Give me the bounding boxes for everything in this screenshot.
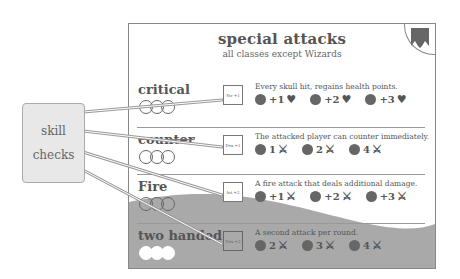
sword-icon: ⚔ [325,144,335,155]
bonus-item: 3 ⚔ [302,240,335,251]
die-icon [365,94,376,105]
sword-icon: ⚔ [278,240,288,251]
bonus-item: +1 ♥ [255,94,296,105]
bonus-value: +3 [380,191,395,202]
bonus-item: 4 ⚔ [349,240,382,251]
row-divider [137,174,425,175]
skill-check-circles [139,197,172,211]
bonus-value: +1 [269,191,284,202]
attack-row-counter: counter Dex +1 The attacked player can c… [129,132,435,178]
row-divider [137,127,425,128]
skill-check-circles [139,246,172,260]
sword-icon: ⚔ [286,191,296,202]
skill-check-circle[interactable] [161,197,175,211]
bonus-list: +1 ♥ +2 ♥ +3 ♥ [255,94,421,105]
die-icon [366,191,377,202]
attack-name: critical [138,82,190,97]
attack-description: Every skull hit, regains health points. [255,82,398,91]
skill-check-circle[interactable] [161,246,175,260]
attack-name: Fire [138,179,167,194]
bonus-value: 3 [316,240,323,251]
bonus-item: +2 ⚔ [310,191,351,202]
bonus-value: +1 [269,94,284,105]
bonus-value: 1 [269,144,276,155]
die-icon [349,144,360,155]
callout-line-2: checks [33,143,75,167]
bonus-item: 4 ⚔ [349,144,382,155]
bonus-item: +2 ♥ [310,94,351,105]
row-divider [137,223,425,224]
die-icon [255,191,266,202]
bonus-value: 4 [363,240,370,251]
stat-requirement-box: Str +1 [223,85,243,105]
bonus-value: 2 [269,240,276,251]
die-icon [302,144,313,155]
sword-icon: ⚔ [278,144,288,155]
bonus-value: +2 [324,191,339,202]
attack-row-critical: critical Str +1 Every skull hit, regains… [129,82,435,128]
stat-requirement-box: Int +2 [223,182,243,202]
bonus-value: 2 [316,144,323,155]
bonus-item: 2 ⚔ [255,240,288,251]
bonus-value: +3 [379,94,394,105]
stat-requirement-box: Dex +1 [223,135,243,155]
bonus-item: 2 ⚔ [302,144,335,155]
sword-icon: ⚔ [325,240,335,251]
callout-line-1: skill [41,119,66,143]
attack-row-fire: Fire Int +2 A fire attack that deals add… [129,179,435,225]
special-attacks-card: special attacks all classes except Wizar… [128,23,436,269]
bonus-item: +3 ♥ [365,94,406,105]
card-subtitle: all classes except Wizards [129,49,435,59]
card-title: special attacks [129,30,435,48]
skill-check-circle[interactable] [161,150,175,164]
stat-requirement-box: Dex +2 [223,231,243,251]
bonus-item: +1 ⚔ [255,191,296,202]
heart-icon: ♥ [397,94,407,105]
attack-name: two handed [138,228,222,243]
die-icon [310,94,321,105]
sword-icon: ⚔ [372,240,382,251]
attack-row-two-handed: two handed Dex +2 A second attack per ro… [129,228,435,269]
heart-icon: ♥ [342,94,352,105]
die-icon [310,191,321,202]
die-icon [349,240,360,251]
bonus-list: +1 ⚔ +2 ⚔ +3 ⚔ [255,191,421,202]
attack-description: The attacked player can counter immediat… [255,132,429,141]
attack-name: counter [138,132,195,147]
banner-icon [411,28,429,48]
sword-icon: ⚔ [372,144,382,155]
bonus-list: 1 ⚔ 2 ⚔ 4 ⚔ [255,144,396,155]
die-icon [255,144,266,155]
die-icon [255,94,266,105]
skill-checks-callout: skill checks [22,103,85,183]
die-icon [302,240,313,251]
skill-check-circles [139,100,172,114]
heart-icon: ♥ [286,94,296,105]
skill-check-circles [139,150,172,164]
bonus-item: 1 ⚔ [255,144,288,155]
die-icon [255,240,266,251]
attack-description: A second attack per round. [255,228,358,237]
sword-icon: ⚔ [397,191,407,202]
bonus-item: +3 ⚔ [366,191,407,202]
attack-description: A fire attack that deals additional dama… [255,179,417,188]
bonus-list: 2 ⚔ 3 ⚔ 4 ⚔ [255,240,396,251]
bonus-value: 4 [363,144,370,155]
bonus-value: +2 [324,94,339,105]
skill-check-circle[interactable] [161,100,175,114]
sword-icon: ⚔ [342,191,352,202]
